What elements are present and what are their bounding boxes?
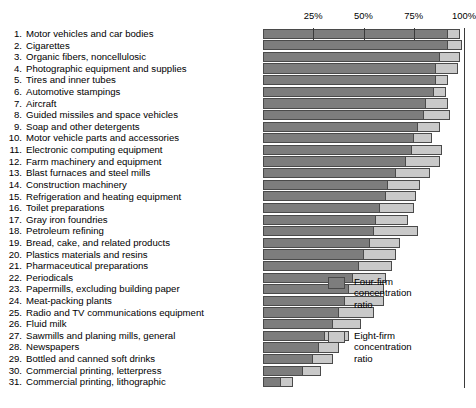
four-firm-bar [263, 156, 406, 166]
four-firm-bar [263, 331, 325, 341]
four-firm-bar [263, 122, 418, 132]
industry-label-column: 1.Motor vehicles and car bodies2.Cigaret… [0, 28, 258, 388]
four-firm-bar [263, 377, 281, 387]
bar-row [263, 237, 464, 249]
industry-name: Organic fibers, noncellulosic [26, 51, 146, 63]
bar-row [263, 86, 464, 98]
industry-label-row: 26.Fluid milk [0, 318, 258, 330]
industry-label-row: 9.Soap and other detergents [0, 121, 258, 133]
industry-label-row: 31.Commercial printing, lithographic [0, 376, 258, 388]
x-tick-label-100: 100% [452, 10, 476, 22]
industry-rank: 6. [0, 86, 26, 98]
industry-rank: 15. [0, 191, 26, 203]
legend-item-four-firm: Four-firm concentration ratio [328, 276, 412, 310]
legend-label: Four-firm concentration ratio [354, 276, 412, 310]
industry-rank: 13. [0, 167, 26, 179]
industry-label-row: 5.Tires and inner tubes [0, 74, 258, 86]
legend-swatch-eight-firm [328, 331, 345, 343]
four-firm-bar [263, 63, 436, 73]
industry-label-row: 29.Bottled and canned soft drinks [0, 353, 258, 365]
x-axis-tick-labels: 25%50%75%100% [263, 10, 473, 24]
x-tick-label-25: 25% [304, 10, 323, 22]
four-firm-bar [263, 40, 448, 50]
industry-label-row: 22.Periodicals [0, 272, 258, 284]
bar-row [263, 377, 464, 389]
four-firm-bar [263, 249, 364, 259]
industry-name: Construction machinery [26, 179, 127, 191]
bar-row [263, 214, 464, 226]
industry-name: Soap and other detergents [26, 121, 140, 133]
industry-name: Photographic equipment and supplies [26, 63, 187, 75]
industry-rank: 25. [0, 307, 26, 319]
four-firm-bar [263, 29, 448, 39]
four-firm-bar [263, 87, 434, 97]
industry-rank: 31. [0, 376, 26, 388]
industry-rank: 16. [0, 202, 26, 214]
industry-name: Radio and TV communications equipment [26, 307, 204, 319]
industry-name: Gray iron foundries [26, 214, 108, 226]
bar-row [263, 133, 464, 145]
x-tick-label-75: 75% [404, 10, 423, 22]
four-firm-bar [263, 203, 380, 213]
bar-row [263, 121, 464, 133]
industry-rank: 8. [0, 109, 26, 121]
bar-row [263, 179, 464, 191]
bar-row [263, 226, 464, 238]
industry-name: Bottled and canned soft drinks [26, 353, 155, 365]
bar-row [263, 98, 464, 110]
industry-label-row: 3.Organic fibers, noncellulosic [0, 51, 258, 63]
four-firm-bar [263, 98, 426, 108]
four-firm-bar [263, 168, 396, 178]
industry-rank: 5. [0, 74, 26, 86]
industry-name: Automotive stampings [26, 86, 120, 98]
industry-label-row: 17.Gray iron foundries [0, 214, 258, 226]
industry-rank: 24. [0, 295, 26, 307]
bar-row [263, 40, 464, 52]
four-firm-bar [263, 366, 303, 376]
industry-label-row: 28.Newspapers [0, 341, 258, 353]
industry-rank: 18. [0, 225, 26, 237]
industry-name: Plastics materials and resins [26, 249, 148, 261]
industry-rank: 17. [0, 214, 26, 226]
industry-label-row: 15.Refrigeration and heating equipment [0, 191, 258, 203]
bar-row [263, 365, 464, 377]
industry-label-row: 20.Plastics materials and resins [0, 249, 258, 261]
four-firm-bar [263, 180, 388, 190]
industry-label-row: 21.Pharmaceutical preparations [0, 260, 258, 272]
industry-name: Commercial printing, lithographic [26, 376, 166, 388]
industry-rank: 2. [0, 40, 26, 52]
legend-swatch-four-firm [328, 277, 345, 289]
industry-label-row: 19.Bread, cake, and related products [0, 237, 258, 249]
industry-label-row: 30.Commercial printing, letterpress [0, 365, 258, 377]
four-firm-bar [263, 261, 359, 271]
industry-label-row: 10.Motor vehicle parts and accessories [0, 132, 258, 144]
industry-name: Meat-packing plants [26, 295, 112, 307]
legend-label: Eight-firm concentration ratio [354, 330, 412, 364]
four-firm-bar [263, 342, 319, 352]
four-firm-bar [263, 145, 412, 155]
industry-label-row: 24.Meat-packing plants [0, 295, 258, 307]
industry-name: Toilet preparations [26, 202, 104, 214]
industry-rank: 19. [0, 237, 26, 249]
industry-rank: 29. [0, 353, 26, 365]
bar-row [263, 51, 464, 63]
industry-name: Refrigeration and heating equipment [26, 191, 181, 203]
four-firm-bar [263, 215, 376, 225]
four-firm-bar [263, 354, 313, 364]
bar-row [263, 249, 464, 261]
industry-name: Electronic computing equipment [26, 144, 163, 156]
gridline-25 [313, 28, 314, 40]
industry-name: Tires and inner tubes [26, 74, 116, 86]
industry-label-row: 7.Aircraft [0, 98, 258, 110]
industry-rank: 4. [0, 63, 26, 75]
bar-row [263, 202, 464, 214]
industry-name: Bread, cake, and related products [26, 237, 170, 249]
industry-label-row: 25.Radio and TV communications equipment [0, 307, 258, 319]
industry-rank: 10. [0, 132, 26, 144]
industry-rank: 27. [0, 330, 26, 342]
industry-rank: 22. [0, 272, 26, 284]
bar-row [263, 191, 464, 203]
industry-name: Motor vehicles and car bodies [26, 28, 153, 40]
industry-name: Blast furnaces and steel mills [26, 167, 150, 179]
bar-row [263, 63, 464, 75]
